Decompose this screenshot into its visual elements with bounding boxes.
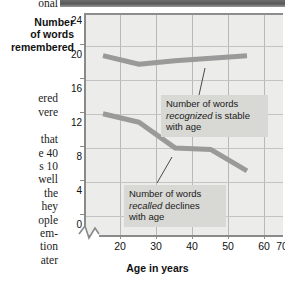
annotation-recalled-line2: declines [162,200,200,211]
xtick-mark-60 [264,235,265,239]
ytick-mark-16 [80,112,85,113]
xtick-mark-30 [156,235,157,239]
annotation-recognized-line3: with age [166,121,201,132]
x-axis-line [85,235,283,237]
annotation-recognized: Number of words recognized is stable wit… [161,95,268,137]
annotation-recognized-emphasis: recognized [166,110,212,121]
annotation-recalled-emphasis: recalled [129,200,162,211]
annotation-recognized-line2: is stable [212,110,250,121]
annotation-recalled-line3: with age [129,211,164,222]
annotation-recalled: Number of words recalled declines with a… [124,185,226,227]
gridline-y-12 [85,148,283,149]
gridline-y-20 [85,80,283,81]
ytick-mark-8 [80,180,85,181]
xtick-label-50: 50 [216,240,240,252]
annotation-recalled-line1: Number of words [129,188,201,199]
ytick-mark-20 [80,78,85,79]
ytick-label-16: 16 [56,83,82,94]
xtick-label-20: 20 [108,240,132,252]
chart-figure: Number of words remembered 0 4 8 12 16 2… [0,0,285,286]
xtick-label-40: 40 [180,240,204,252]
ytick-label-4: 4 [56,185,82,196]
xtick-label-70: 70 [270,240,285,252]
x-axis-title: Age in years [85,262,230,274]
y-axis-title-line: of words [0,28,74,40]
xtick-mark-40 [192,235,193,239]
gridline-x-20 [120,15,121,237]
annotation-recognized-line1: Number of words [166,98,238,109]
ytick-label-24: 24 [56,15,82,26]
ytick-mark-24 [80,44,85,45]
ytick-mark-4 [80,214,85,215]
ytick-label-8: 8 [56,151,82,162]
ytick-label-0: 0 [56,219,82,230]
ytick-label-20: 20 [56,49,82,60]
gridline-y-24 [85,46,283,47]
xtick-mark-20 [120,235,121,239]
gridline-y-8 [85,182,283,183]
ytick-label-12: 12 [56,117,82,128]
xtick-label-30: 30 [144,240,168,252]
y-axis-line [84,13,86,235]
xtick-mark-50 [228,235,229,239]
ytick-mark-12 [80,146,85,147]
